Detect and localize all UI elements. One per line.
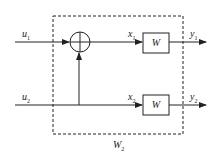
input-label-u2: u2 <box>22 92 30 104</box>
summing-junction-icon <box>70 32 90 52</box>
w-block-2-label: W <box>143 99 169 110</box>
block-diagram <box>0 0 220 160</box>
w-block-1-label: W <box>143 37 169 48</box>
output-label-y2: y2 <box>190 92 197 104</box>
input-label-u1: u1 <box>22 29 30 41</box>
output-label-y1: y1 <box>190 29 197 41</box>
intermediate-label-x1: x1 <box>128 29 135 41</box>
enclosure-label: W2 <box>113 140 124 152</box>
intermediate-label-x2: x2 <box>128 92 135 104</box>
